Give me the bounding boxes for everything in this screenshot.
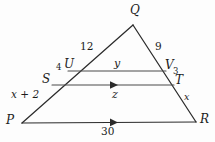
vertex-label-P: P — [6, 114, 14, 126]
vertex-label-Q: Q — [130, 4, 140, 16]
side-PQ — [22, 25, 133, 123]
measure-label-SP: x + 2 — [11, 89, 39, 100]
vertex-label-R: R — [200, 113, 209, 125]
measure-label-QU: 12 — [80, 41, 93, 52]
side-QR — [133, 25, 196, 122]
measure-label-US: 4 — [56, 63, 61, 72]
measure-label-TR: x — [184, 92, 189, 102]
measure-label-QV: 9 — [155, 41, 162, 52]
measure-label-ST: z — [112, 89, 118, 100]
point-label-U: U — [64, 58, 74, 70]
triangle-diagram-canvas — [0, 0, 215, 142]
measure-label-UV: y — [114, 58, 120, 69]
geometry-figure: Q P R U S V T 12 9 4 3 y z x + 2 x 30 — [0, 0, 215, 142]
measure-label-PR: 30 — [101, 126, 114, 137]
measure-label-VT: 3 — [173, 67, 178, 76]
side-PR — [22, 122, 196, 123]
point-label-S: S — [42, 73, 50, 85]
